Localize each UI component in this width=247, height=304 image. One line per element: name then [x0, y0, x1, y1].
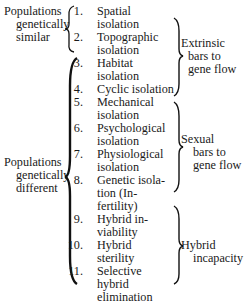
left-group-similar-line2: genetically — [16, 18, 69, 31]
item-text: Physiological — [97, 148, 163, 161]
item-text: isolation — [97, 44, 139, 57]
item-text: isolation — [97, 18, 139, 31]
item-text: isolation — [97, 135, 139, 148]
left-group-similar-line3: similar — [16, 31, 50, 44]
left-group-similar-line1: Populations — [4, 5, 62, 18]
item-text: isolation — [97, 109, 139, 122]
left-group-different-line1: Populations — [4, 156, 62, 169]
right-group-hybrid-line1: Hybrid — [181, 239, 216, 252]
item-number: 6. — [63, 122, 83, 135]
left-group-different-line3: different — [16, 182, 58, 195]
item-text: isolation — [97, 161, 139, 174]
right-group-sexual-line3: gene flow — [193, 159, 241, 172]
right-group-extrinsic-line1: Extrinsic — [181, 37, 225, 50]
right-brace-sexual — [172, 100, 184, 194]
right-brace-extrinsic — [172, 16, 184, 98]
item-text: Genetic isola- — [97, 174, 165, 187]
right-group-sexual-line2: bars to — [193, 146, 226, 159]
item-text: Psychological — [97, 122, 165, 135]
item-text: Hybrid — [97, 239, 132, 252]
item-number: 10. — [63, 239, 83, 252]
item-text: tion (In- — [97, 187, 137, 200]
left-group-different-line2: genetically — [16, 169, 69, 182]
item-number: 7. — [63, 148, 83, 161]
item-text: isolation — [97, 70, 139, 83]
item-text: Hybrid in- — [97, 213, 148, 226]
item-text: Selective — [97, 265, 142, 278]
right-group-extrinsic-line2: bars to — [188, 50, 221, 63]
item-number: 2. — [63, 31, 83, 44]
item-number: 8. — [63, 174, 83, 187]
item-text: Habitat — [97, 57, 133, 70]
item-number: 11. — [63, 265, 83, 278]
item-number: 3. — [63, 57, 83, 70]
item-text: fertility) — [97, 200, 138, 213]
item-text: viability — [97, 226, 138, 239]
right-group-hybrid-line2: incapacity — [193, 252, 243, 265]
item-number: 1. — [63, 5, 83, 18]
item-number: 9. — [63, 213, 83, 226]
item-number: 4. — [63, 83, 83, 96]
item-text: Spatial — [97, 5, 131, 18]
right-group-extrinsic-line3: gene flow — [188, 63, 236, 76]
item-number: 5. — [63, 96, 83, 109]
item-text: Mechanical — [97, 96, 154, 109]
item-text: hybrid — [97, 278, 129, 291]
item-text: sterility — [97, 252, 134, 265]
right-group-sexual-line1: Sexual — [181, 133, 214, 146]
item-text: Cyclic isolation — [97, 83, 174, 96]
item-text: Topographic — [97, 31, 158, 44]
item-text: elimination — [97, 291, 153, 304]
